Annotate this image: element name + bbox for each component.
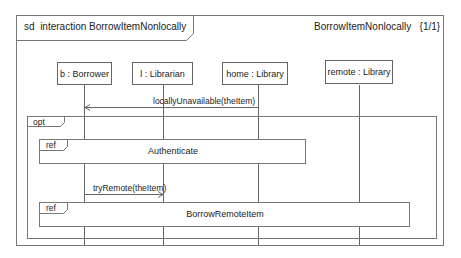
frame-right-title: BorrowItemNonlocally {1/1}	[314, 21, 440, 32]
message-locally-unavailable[interactable]: locallyUnavailable(theItem)	[153, 96, 255, 106]
lifeline-label: b : Borrower	[60, 69, 109, 79]
diagram-lines	[0, 0, 461, 258]
message-try-remote[interactable]: tryRemote(theItem)	[93, 183, 166, 193]
lifeline-label: home : Library	[226, 69, 284, 79]
lifeline-borrower[interactable]: b : Borrower	[57, 62, 112, 85]
page-indicator: {1/1}	[420, 21, 441, 32]
ref-authenticate[interactable]: Authenticate	[40, 146, 306, 156]
frame-kind: sd	[24, 21, 35, 32]
fragment-opt-label: opt	[33, 117, 45, 127]
lifeline-label: l : Librarian	[140, 69, 185, 79]
lifeline-remote-library[interactable]: remote : Library	[325, 60, 393, 84]
lifeline-label: remote : Library	[327, 67, 390, 77]
lifeline-librarian[interactable]: l : Librarian	[132, 62, 193, 85]
frame-kind-label: sd interaction BorrowItemNonlocally	[24, 21, 186, 32]
ref-borrow-remote-item[interactable]: BorrowRemoteItem	[40, 209, 410, 219]
lifeline-home-library[interactable]: home : Library	[222, 62, 288, 85]
diagram-name: BorrowItemNonlocally	[314, 21, 411, 32]
frame-title: interaction BorrowItemNonlocally	[40, 21, 186, 32]
